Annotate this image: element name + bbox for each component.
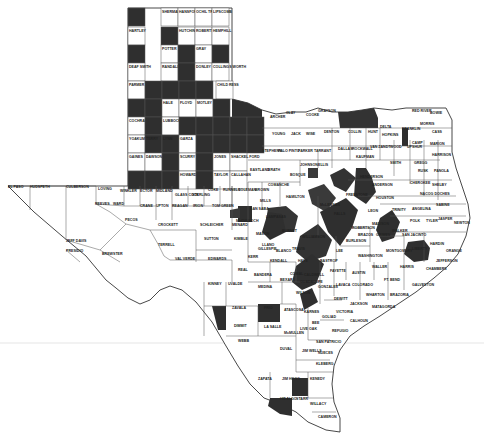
- county-label: DELTA: [380, 125, 392, 129]
- county-label: LIPSCOMB: [213, 10, 232, 14]
- county-label: AUSTIN: [352, 271, 366, 275]
- county-label: COOKE: [306, 113, 320, 117]
- shaded-region-montague-cooke: [338, 108, 378, 128]
- county-label: SAN SABA: [250, 207, 269, 211]
- county-label: GAINES: [129, 155, 143, 159]
- county-label: CHEROKEE: [410, 181, 431, 185]
- county-cell: [196, 135, 213, 153]
- county-label: HUDSPETH: [30, 185, 50, 189]
- county-label: GILLESPIE: [258, 247, 277, 251]
- county-label: REFUGIO: [332, 329, 349, 333]
- county-label: UVALDE: [228, 282, 243, 286]
- county-cell: [128, 171, 145, 189]
- county-label: EL PASO: [8, 185, 24, 189]
- county-cell: [145, 117, 162, 135]
- county-label: PARMER: [129, 83, 145, 87]
- county-label: JIM HOGG: [282, 377, 300, 381]
- county-label: HIDALGO: [280, 397, 297, 401]
- county-label: BREWSTER: [102, 252, 123, 256]
- county-label: LEON: [368, 209, 378, 213]
- county-label: PARKER: [298, 149, 313, 153]
- county-label: HENDERSON: [360, 175, 383, 179]
- county-label: TRINITY: [392, 208, 407, 212]
- county-label: ROBERTS: [196, 29, 214, 33]
- county-label: LOVING: [98, 187, 112, 191]
- county-label: UPSHUR: [407, 145, 423, 149]
- county-label: FRANKLIN: [402, 127, 421, 131]
- county-label: STERLING: [192, 193, 210, 197]
- county-label: LIVE OAK: [300, 327, 317, 331]
- county-label: ZAVALA: [232, 306, 246, 310]
- county-cell: [196, 81, 213, 99]
- county-label: JONES: [214, 155, 227, 159]
- county-label: NUECES: [318, 351, 334, 355]
- county-label: WINKLER: [120, 189, 137, 193]
- county-label: BOWIE: [430, 111, 443, 115]
- county-label: WISE: [306, 132, 316, 136]
- county-cell: [145, 99, 162, 117]
- county-label: KINNEY: [208, 282, 222, 286]
- county-label: GRAY: [196, 47, 207, 51]
- county-label: NACOG DOCHES: [420, 192, 450, 196]
- county-label: TAYLOR: [214, 173, 229, 177]
- county-label: SCURRY: [180, 155, 196, 159]
- county-label: WHARTON: [366, 293, 385, 297]
- county-label: CALLAHAN: [231, 173, 251, 177]
- county-label: LYNN: [163, 137, 173, 141]
- county-label: DAWSON: [146, 155, 163, 159]
- county-label: FREESTONE: [346, 193, 369, 197]
- county-label: RANDALL: [162, 65, 180, 69]
- county-label: WALLER: [372, 265, 388, 269]
- county-label: HEMPHILL: [213, 29, 232, 33]
- county-label: BOSQUE: [290, 173, 306, 177]
- county-label: ANDERSON: [372, 183, 393, 187]
- county-label: HOPKINS: [382, 133, 399, 137]
- county-label: KLEBERG: [316, 362, 334, 366]
- county-label: CHAMBERS: [426, 267, 447, 271]
- county-label: HARRIS: [400, 265, 414, 269]
- county-label: FLOYD: [180, 101, 193, 105]
- county-label: ANGELINA: [412, 207, 431, 211]
- county-label: TERRY: [146, 137, 159, 141]
- county-label: FAYETTE: [330, 269, 346, 273]
- county-label: LIBERTY: [412, 247, 428, 251]
- county-label: REAGAN: [172, 204, 188, 208]
- county-label: ZAPATA: [258, 377, 272, 381]
- county-label: MASON: [256, 232, 270, 236]
- county-cell: [162, 171, 179, 189]
- county-label: DONLEY: [196, 65, 212, 69]
- county-label: HARTLEY: [129, 29, 147, 33]
- county-cell: [162, 81, 179, 99]
- county-label: CRANE: [140, 204, 153, 208]
- county-label: COMANCHE: [268, 183, 290, 187]
- county-label: YOAKUM: [129, 137, 145, 141]
- county-label: ARCHER: [270, 115, 286, 119]
- county-label: COLLIN: [348, 130, 362, 134]
- county-label: CULBERSON: [66, 185, 89, 189]
- county-label: FALLS: [334, 212, 346, 216]
- county-label: RUSK: [418, 169, 429, 173]
- county-cell: [128, 99, 145, 117]
- county-cell: [247, 117, 264, 135]
- county-label: GUADALUPE: [300, 280, 323, 284]
- county-cell: [128, 45, 145, 63]
- county-cell: [196, 171, 213, 189]
- county-label: BASTROP: [320, 259, 338, 263]
- county-cell: [196, 153, 213, 171]
- shaded-region-somervell: [308, 168, 318, 178]
- county-label: NEWTON: [454, 221, 470, 225]
- county-label: VAN ZANDT: [370, 145, 391, 149]
- county-label: ERATH: [268, 168, 281, 172]
- county-label: SMITH: [390, 161, 402, 165]
- county-label: DUVAL: [280, 347, 293, 351]
- county-cell: [213, 135, 230, 153]
- county-label: VAL VERDE: [175, 257, 196, 261]
- county-label: GARZA: [180, 137, 193, 141]
- county-label: JEFFERSON: [436, 259, 458, 263]
- county-cell: [178, 63, 195, 81]
- county-label: LA SALLE: [264, 325, 282, 329]
- county-label: TOM GREEN: [212, 204, 234, 208]
- county-label: McMULLEN: [284, 331, 304, 335]
- county-label: SCHLEICHER: [200, 223, 224, 227]
- county-cell: [145, 171, 162, 189]
